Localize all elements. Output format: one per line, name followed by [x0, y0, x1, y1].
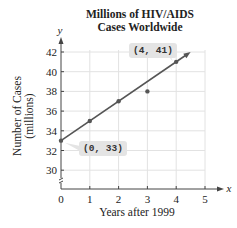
x-tick-label: 3: [145, 193, 151, 205]
y-tick-label: 42: [46, 46, 57, 58]
y-tick-label: 32: [46, 145, 57, 157]
y-axis-symbol: y: [57, 24, 63, 36]
callout-pointer-0-33: [65, 143, 80, 151]
line-data-point: [174, 60, 178, 64]
trend-line: [61, 54, 188, 141]
annotation-callout-0-33: (0, 33): [79, 141, 127, 156]
line-data-point: [116, 99, 120, 103]
trend-line-arrow-icon: [183, 52, 190, 58]
x-axis-arrow-icon: [217, 187, 224, 192]
x-tick-label: 1: [87, 193, 93, 205]
annotation-callout-4-41: (4, 41): [129, 43, 177, 58]
y-tick-label: 40: [46, 66, 58, 78]
x-tick-label: 0: [58, 193, 64, 205]
line-data-point: [88, 119, 92, 123]
y-tick-label: 36: [46, 105, 58, 117]
scatter-data-point: [145, 89, 149, 93]
axis-break-icon: [59, 178, 63, 183]
y-axis-arrow-icon: [59, 37, 64, 44]
y-tick-label: 38: [46, 85, 58, 97]
line-data-point: [59, 138, 63, 142]
x-tick-label: 5: [202, 193, 208, 205]
y-tick-label: 30: [46, 164, 58, 176]
x-tick-label: 4: [173, 193, 179, 205]
x-tick-label: 2: [116, 193, 122, 205]
x-axis-symbol: x: [226, 182, 232, 194]
chart-plot: yx 01234530323436384042: [0, 0, 237, 228]
tick-labels: 01234530323436384042: [46, 46, 208, 205]
data-series: [59, 45, 191, 151]
y-tick-label: 34: [46, 125, 58, 137]
grid-lines: [61, 50, 205, 189]
